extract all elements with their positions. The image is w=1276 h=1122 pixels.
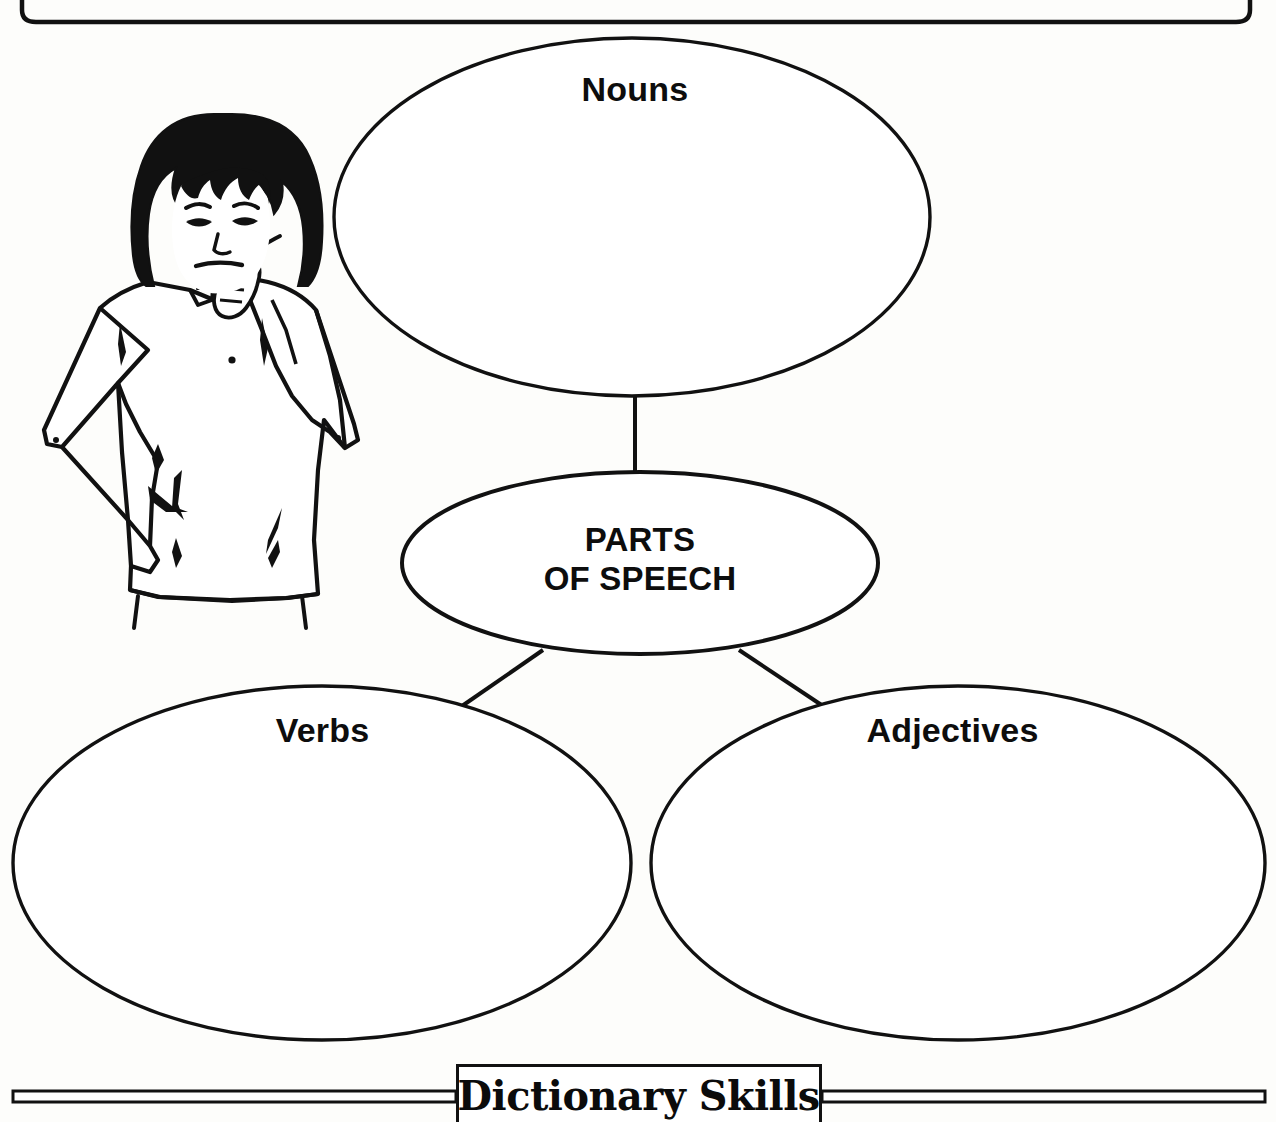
girl-dot-left [53, 437, 59, 443]
footer-title-box: Dictionary Skills [456, 1064, 822, 1122]
connector-center-to-adjectives [739, 650, 823, 706]
thinking-girl-illustration [44, 114, 358, 628]
footer-title-text: Dictionary Skills [458, 1076, 820, 1117]
page-border [22, 0, 1250, 22]
worksheet-page: Nouns PARTS OF SPEECH Verbs Adjectives D… [0, 0, 1276, 1122]
girl-leg-right [302, 596, 306, 628]
girl-leg-left [134, 596, 138, 628]
girl-shirt [44, 276, 358, 600]
ellipse-nouns [334, 38, 930, 396]
girl-dot-chest [228, 356, 235, 363]
ellipse-verbs [13, 686, 631, 1040]
worksheet-artwork [0, 0, 1276, 1122]
connector-center-to-verbs [462, 650, 543, 706]
girl-dot-right [335, 435, 341, 441]
ellipse-adjectives [651, 686, 1265, 1040]
footer-rule-right [822, 1091, 1265, 1102]
ellipse-parts-of-speech [402, 472, 878, 654]
footer-rule-left [13, 1091, 456, 1102]
